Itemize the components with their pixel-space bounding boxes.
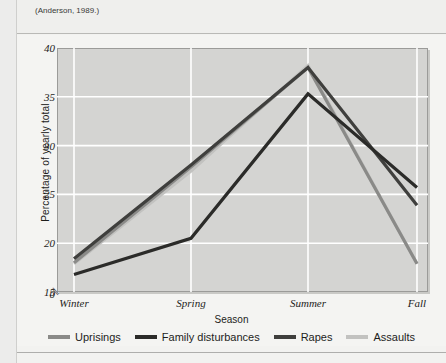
chart-container: 4035302520150 Percentage of yearly total… — [17, 35, 446, 346]
legend-label: Rapes — [301, 331, 333, 343]
legend-label: Uprisings — [75, 331, 121, 343]
series-line-assaults — [74, 66, 417, 264]
y-tick-label-40: 40 — [21, 42, 55, 54]
legend-swatch-icon — [48, 335, 70, 339]
x-tick-label-fall: Fall — [408, 297, 426, 309]
caption-band: (Anderson, 1989.) — [17, 0, 446, 34]
legend-item-assaults[interactable]: Assaults — [346, 331, 415, 343]
source-citation: (Anderson, 1989.) — [35, 6, 99, 15]
legend-label: Assaults — [373, 331, 415, 343]
legend-label: Family disturbances — [162, 331, 260, 343]
legend-swatch-icon — [135, 335, 157, 339]
x-tick-label-winter: Winter — [59, 297, 88, 309]
x-tick-label-summer: Summer — [290, 297, 326, 309]
figure-page: Figure reproduced from source text (Ande… — [0, 0, 446, 363]
figure-bottom-divider — [17, 352, 446, 353]
figure-panel: 4035302520150 Percentage of yearly total… — [17, 35, 446, 346]
legend-swatch-icon — [346, 335, 368, 339]
chart-plot-svg — [57, 48, 428, 292]
legend-swatch-icon — [274, 335, 296, 339]
page-margin-strip: Figure reproduced from source text — [0, 0, 17, 363]
legend-item-family-disturbances[interactable]: Family disturbances — [135, 331, 260, 343]
x-tick-label-spring: Spring — [176, 297, 205, 309]
y-axis-title: Percentage of yearly total — [40, 78, 51, 248]
chart-legend: UprisingsFamily disturbancesRapesAssault… — [17, 331, 446, 343]
gridlines-horizontal — [57, 97, 428, 243]
legend-item-uprisings[interactable]: Uprisings — [48, 331, 121, 343]
legend-item-rapes[interactable]: Rapes — [274, 331, 333, 343]
x-axis-title: Season — [17, 314, 446, 325]
